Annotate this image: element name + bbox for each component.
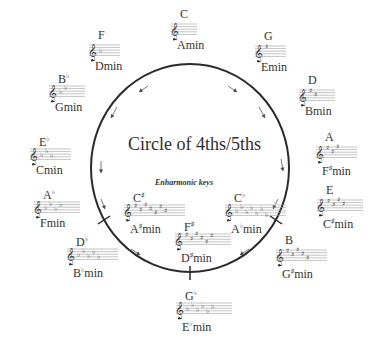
sharp-icon: ♯ [306,254,309,262]
flat-icon: ♭ [45,147,48,155]
key-eb: E♭𝄞♭♭♭Cmin [27,133,87,179]
flat-icon: ♭ [50,152,53,160]
treble-clef-icon: 𝄞 [66,247,75,265]
flat-icon: ♭ [250,204,253,212]
key-d: D𝄞♯♯Bmin [296,74,356,120]
major-key-label: F [98,29,105,41]
sharp-icon: ♯ [331,148,334,156]
major-key-label: E [326,184,333,196]
sharp-icon: ♯ [210,232,213,240]
arrowhead-icon [280,167,284,171]
sharp-icon: ♯ [332,201,335,209]
treble-clef-icon: 𝄞 [174,232,183,250]
major-key-label: D [308,74,317,86]
relative-minor-label: Emin [261,61,287,73]
flat-icon: ♭ [49,200,52,208]
accidental-icon: ♭ [194,289,197,297]
sharp-icon: ♯ [205,238,208,246]
relative-minor-label: B♭min [73,264,103,279]
relative-minor-label: A♯min [130,220,161,235]
sharp-icon: ♯ [159,203,162,211]
accidental-icon: ♯ [191,220,195,228]
flat-icon: ♭ [54,205,57,213]
sharp-icon: ♯ [337,196,340,204]
relative-minor-label: Cmin [36,164,63,176]
flat-icon: ♭ [186,305,189,313]
relative-minor-label: Dmin [95,60,122,72]
treble-clef-icon: 𝄞 [275,248,284,266]
sharp-icon: ♯ [200,234,203,242]
sharp-icon: ♯ [134,202,137,210]
major-key-label: B [285,234,293,246]
sharp-icon: ♯ [149,205,152,213]
key-g: G𝄞♯Emin [252,30,312,76]
sharp-icon: ♯ [314,91,317,99]
relative-minor-label: F♯min [322,162,351,177]
key-fs: F♯𝄞♯♯♯♯♯♯D♯min [172,218,232,264]
flat-icon: ♭ [82,247,85,255]
relative-minor-label: G♯min [282,265,313,280]
relative-minor-label: C♯min [323,215,353,230]
circle-of-fifths-diagram: Circle of 4ths/5ths Enharmonic keys C𝄞Am… [0,0,378,339]
sharp-icon: ♯ [326,144,329,152]
flat-icon: ♭ [64,84,67,92]
sharp-icon: ♯ [265,43,268,51]
flat-icon: ♭ [206,307,209,315]
flat-icon: ♭ [235,207,238,215]
accidental-icon: ♭ [85,235,88,243]
major-key-label: A [325,131,334,143]
staff-with-key-signature: 𝄞♭♭♭♭♭ [64,246,118,266]
key-bb: B♭𝄞♭♭Gmin [46,70,106,116]
sharp-icon: ♯ [327,197,330,205]
relative-minor-label: A♭min [231,220,262,235]
accidental-icon: ♭ [52,188,55,196]
key-ab: A♭𝄞♭♭♭♭Fmin [31,186,91,232]
major-key-label: C [180,8,188,20]
accidental-icon: ♭ [242,191,245,199]
enharmonic-keys-label: Enharmonic keys [155,178,213,187]
flat-icon: ♭ [92,248,95,256]
accidental-icon: ♭ [66,72,69,80]
flat-icon: ♭ [97,253,100,261]
relative-minor-label: Fmin [40,217,65,229]
key-a: A𝄞♯♯♯F♯min [313,131,373,177]
flat-icon: ♭ [59,88,62,96]
flat-icon: ♭ [265,211,268,219]
key-f: F𝄞♭Dmin [86,29,146,75]
flat-icon: ♭ [240,203,243,211]
sharp-icon: ♯ [301,250,304,258]
accidental-icon: ♭ [46,135,49,143]
treble-clef-icon: 𝄞 [315,145,324,163]
key-gb: G♭𝄞♭♭♭♭♭♭E♭min [173,287,233,333]
key-e: E𝄞♯♯♯♯C♯min [314,184,374,230]
relative-minor-label: D♯min [181,249,212,264]
staff-with-key-signature: 𝄞♭♭♭♭♭♭ [173,300,232,320]
diagram-title: Circle of 4ths/5ths [128,134,261,155]
sharp-icon: ♯ [190,235,193,243]
staff-with-key-signature: 𝄞♯♯♯ [313,144,357,164]
major-key-label: G [264,30,273,42]
treble-clef-icon: 𝄞 [123,203,132,221]
relative-minor-label: Amin [177,39,204,51]
accidental-icon: ♯ [141,191,145,199]
staff-with-key-signature: 𝄞♯♯♯♯ [314,197,363,217]
sharp-icon: ♯ [154,209,157,217]
flat-icon: ♭ [255,209,258,217]
flat-icon: ♭ [201,302,204,310]
staff-with-key-signature: 𝄞♯♯♯♯♯ [273,247,327,267]
key-b: B𝄞♯♯♯♯♯G♯min [273,234,333,280]
relative-minor-label: Bmin [305,105,332,117]
flat-icon: ♭ [44,204,47,212]
flat-icon: ♭ [99,47,102,55]
sharp-icon: ♯ [342,200,345,208]
key-c: C𝄞Amin [168,8,228,54]
sharp-icon: ♯ [291,251,294,259]
flat-icon: ♭ [77,251,80,259]
sharp-icon: ♯ [185,231,188,239]
sharp-icon: ♯ [144,201,147,209]
key-db: D♭𝄞♭♭♭♭♭B♭min [64,233,124,279]
flat-icon: ♭ [59,201,62,209]
staff-with-key-signature: 𝄞♯♯♯♯♯♯ [172,231,231,251]
flat-icon: ♭ [245,208,248,216]
treble-clef-icon: 𝄞 [316,198,325,216]
